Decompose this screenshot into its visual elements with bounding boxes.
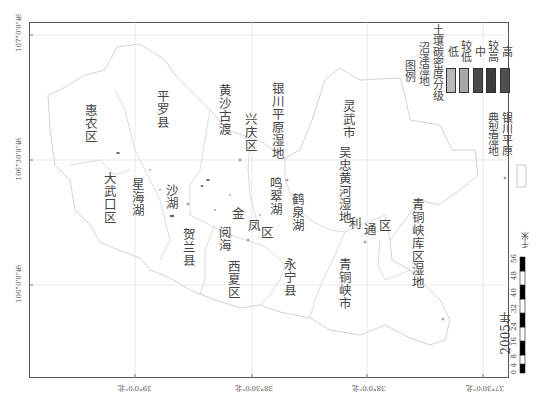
region-label-qingtongxia-reservoir: 青铜峡库区湿地	[410, 198, 423, 289]
legend-class-low-label: 低	[446, 46, 458, 57]
region-label-li: 利	[347, 217, 360, 230]
region-label-pingluo: 平罗县	[155, 90, 168, 129]
legend-title: 图例	[403, 60, 415, 82]
legend-swatch-low	[446, 68, 456, 93]
legend-class-mid-label: 中	[473, 46, 485, 57]
region-label-qingtongxia: 青铜峡市	[337, 258, 350, 310]
region-label-tong: 通	[362, 223, 375, 236]
region-label-yongning: 永宁县	[282, 258, 295, 297]
coord-label-37-30: 37°30'0"北	[466, 384, 504, 394]
coord-label-107: 107°0'0"东	[14, 14, 24, 52]
legend-class-higher-label: 较高	[486, 40, 498, 62]
scale-tick-0: 0	[510, 370, 518, 374]
legend-swatch-high	[500, 68, 510, 93]
scale-tick-24: 24	[510, 322, 518, 331]
region-label-huinong: 惠农区	[83, 104, 96, 143]
region-label-yinchuan-wetland: 银川平原湿地	[270, 82, 283, 160]
scale-bar	[520, 257, 525, 373]
scale-tick-4: 4	[510, 363, 518, 367]
scale-tick-16: 16	[510, 337, 518, 346]
region-label-dawukou: 大武口区	[102, 172, 115, 224]
region-label-hequanhu: 鹤泉湖	[290, 193, 303, 232]
coord-label-39: 39°0'0"北	[118, 384, 151, 394]
scale-unit: 千米	[520, 232, 531, 248]
coord-label-38: 38°0'0"北	[352, 384, 385, 394]
district-boundaries	[70, 90, 410, 318]
legend-swatch-lower	[459, 68, 469, 93]
legend-subtitle-carbon: 土壤碳密度分级	[431, 24, 443, 101]
region-label-yuehai: 阅海	[217, 226, 230, 252]
region-label-mingcuihu: 鸣翠湖	[268, 177, 281, 216]
region-label-wuzhong-wetland: 吴忠黄河湿地	[337, 146, 350, 224]
legend-subtitle-marsh: 沼泽湿地	[417, 42, 429, 86]
region-label-lingwu: 灵武市	[341, 100, 354, 139]
legend-typical-swatch	[517, 165, 526, 187]
year-label: 2005年	[497, 312, 514, 355]
scale-tick-32: 32	[510, 304, 518, 313]
scale-tick-48: 48	[510, 271, 518, 280]
legend-swatch-mid	[473, 68, 483, 93]
region-label-xixia: 西夏区	[226, 260, 239, 299]
legend-yinchuan-label: 银川平原	[500, 112, 512, 156]
scale-tick-8: 8	[510, 354, 518, 358]
region-label-qu2: 区	[377, 219, 390, 232]
region-label-qu: 区	[259, 226, 272, 239]
scale-tick-56: 56	[510, 254, 518, 263]
region-label-xingqing: 兴庆区	[243, 113, 256, 152]
coord-label-38-30: 38°30'0"北	[235, 384, 273, 394]
legend-swatch-higher	[486, 68, 496, 93]
scale-tick-40: 40	[510, 288, 518, 297]
coord-label-106: 106°0'0"东	[14, 265, 24, 303]
legend-typical-label: 典型湿地	[486, 112, 498, 156]
region-label-huangshagudu: 黄沙古渡	[217, 84, 230, 136]
region-label-shahu: 沙湖	[164, 184, 177, 210]
region-label-helan: 贺兰县	[181, 228, 194, 267]
region-label-jin: 金	[230, 207, 243, 220]
coord-label-106-30: 106°30'0"东	[14, 138, 24, 180]
legend-class-high-label: 高	[500, 46, 512, 57]
region-label-xinghaihu: 星海湖	[130, 178, 143, 217]
legend-class-lower-label: 较低	[459, 40, 471, 62]
